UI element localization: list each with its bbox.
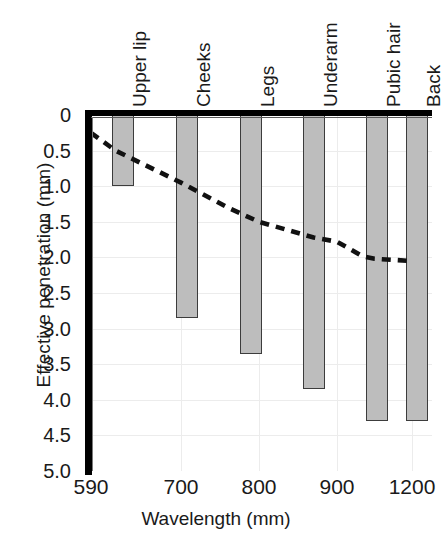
category-label-pubic-hair: Pubic hair <box>384 23 403 108</box>
x-tick-label: 900 <box>302 476 372 497</box>
y-tick-label: 3.5 <box>0 354 78 374</box>
category-label-legs: Legs <box>258 66 277 107</box>
y-tick-label: 1.0 <box>0 176 78 196</box>
plot-area <box>91 115 432 471</box>
y-tick-label: 3.0 <box>0 319 78 339</box>
y-tick-label: 4.0 <box>0 390 78 410</box>
top-axis-spine <box>85 110 432 116</box>
category-label-cheeks: Cheeks <box>194 43 213 107</box>
x-tick-label: 590 <box>56 476 126 497</box>
y-tick-label: 2.5 <box>0 283 78 303</box>
plot-frame-left <box>92 117 93 471</box>
x-tick-label: 700 <box>146 476 216 497</box>
y-tick-label: 0.5 <box>0 141 78 161</box>
y-tick-label: 2.0 <box>0 247 78 267</box>
x-tick-label: 1200 <box>377 476 445 497</box>
x-tick-label: 800 <box>224 476 294 497</box>
y-axis-tick-labels: 00.51.01.52.02.53.03.54.04.55.0 <box>0 0 78 537</box>
y-tick-label: 1.5 <box>0 212 78 232</box>
left-axis-spine <box>85 110 92 475</box>
y-tick-label: 0 <box>0 105 78 125</box>
y-tick-label: 4.5 <box>0 425 78 445</box>
trend-line-dashed <box>91 115 432 471</box>
plot-frame-top <box>91 117 432 118</box>
category-label-back: Back <box>424 65 443 107</box>
x-axis-title: Wavelength (mm) <box>0 508 432 530</box>
category-label-upper-lip: Upper lip <box>130 31 149 107</box>
category-label-underarm: Underarm <box>321 23 340 107</box>
